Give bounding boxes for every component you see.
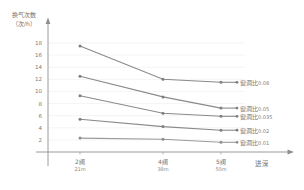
legend-item-4: 窗洞比0.01	[240, 139, 269, 147]
y-tick-label-2: 2	[26, 137, 42, 143]
y-tick-label-16: 16	[26, 52, 42, 58]
x-axis	[36, 150, 294, 155]
series-line-0.05	[79, 75, 223, 110]
x-tick-label-1: 4阀 38m	[145, 158, 181, 173]
y-tick-label-8: 8	[26, 101, 42, 107]
legend-item-2: 窗洞比0.035	[240, 113, 272, 121]
y-tick-label-4: 4	[26, 125, 42, 131]
y-tick-label-18: 18	[26, 40, 42, 46]
x-tick-label-1-main: 4阀	[145, 158, 181, 166]
y-axis	[46, 18, 51, 167]
series-line-0.08	[79, 45, 223, 84]
legend-item-0-name: 窗洞比	[240, 79, 258, 86]
x-tick-label-2-main: 5阀	[203, 158, 239, 166]
legend-item-1: 窗洞比0.05	[240, 105, 269, 113]
x-tick-label-2-sub: 50m	[203, 166, 239, 173]
series-line-0.035	[79, 94, 223, 118]
y-tick-label-12: 12	[26, 76, 42, 82]
series-line-0.02	[79, 118, 223, 132]
legend-item-0: 窗洞比0.08	[240, 79, 269, 87]
legend-item-3-name: 窗洞比	[240, 127, 258, 134]
series-line-0.01	[79, 137, 223, 144]
x-tick-label-0-main: 2阀	[62, 158, 98, 166]
legend-item-0-value: 0.08	[258, 80, 269, 86]
legend-leader-lines	[221, 81, 238, 144]
x-tick-label-1-sub: 38m	[145, 166, 181, 173]
x-tick-label-0-sub: 21m	[62, 166, 98, 173]
y-tick-label-14: 14	[26, 64, 42, 70]
x-tick-label-0: 2阀 21m	[62, 158, 98, 173]
y-tick-label-6: 6	[26, 113, 42, 119]
legend-item-4-value: 0.01	[258, 140, 269, 146]
legend-item-4-name: 窗洞比	[240, 139, 258, 146]
x-tick-label-2: 5阀 50m	[203, 158, 239, 173]
legend-item-2-value: 0.035	[258, 114, 272, 120]
legend-item-3-value: 0.02	[258, 128, 269, 134]
chart-container: 换气次数 （次/h）	[0, 0, 304, 190]
legend-item-1-name: 窗洞比	[240, 105, 258, 112]
x-axis-title: 进深	[255, 158, 269, 168]
legend-item-3: 窗洞比0.02	[240, 127, 269, 135]
legend-item-1-value: 0.05	[258, 106, 269, 112]
legend-item-2-name: 窗洞比	[240, 113, 258, 120]
y-tick-label-10: 10	[26, 88, 42, 94]
